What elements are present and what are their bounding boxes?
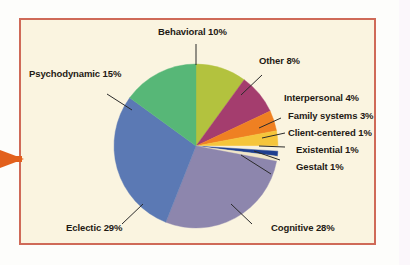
slice-label-cognitive: Cognitive 28% xyxy=(271,222,335,233)
slice-label-interpersonal: Interpersonal 4% xyxy=(284,92,359,103)
slice-label-other: Other 8% xyxy=(259,55,300,66)
slice-label-existential: Existential 1% xyxy=(296,144,359,155)
page-edge-band xyxy=(399,0,410,265)
slice-label-family-systems: Family systems 3% xyxy=(288,110,373,121)
slice-label-behavioral: Behavioral 10% xyxy=(158,26,227,37)
pie-slice-group xyxy=(114,64,278,228)
slice-label-client-centered: Client-centered 1% xyxy=(288,127,372,138)
leader-eclectic xyxy=(122,204,143,224)
slice-label-gestalt: Gestalt 1% xyxy=(296,161,344,172)
page-canvas: Behavioral 10% Other 8% Interpersonal 4%… xyxy=(0,0,410,265)
slice-label-psychodynamic: Psychodynamic 15% xyxy=(29,68,121,79)
slice-label-eclectic: Eclectic 29% xyxy=(66,222,122,233)
